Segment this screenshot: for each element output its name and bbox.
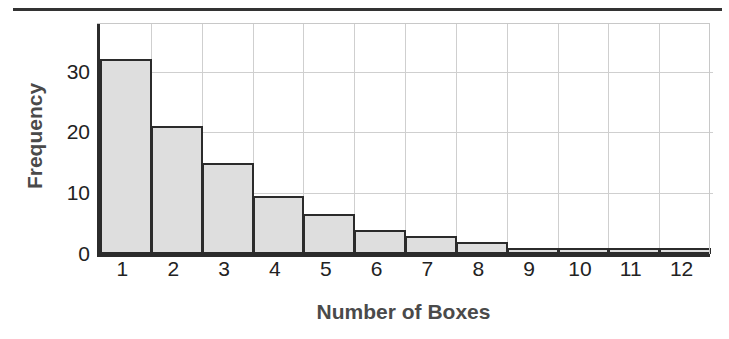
y-tick-label: 10 — [50, 182, 90, 203]
y-tick-label: 0 — [50, 243, 90, 264]
x-axis-tick-labels: 123456789101112 — [97, 258, 710, 288]
x-tick-label: 5 — [300, 258, 351, 279]
x-tick-label: 6 — [351, 258, 402, 279]
y-tick-label: 20 — [50, 121, 90, 142]
plot-frame-top — [97, 23, 710, 24]
histogram-bar — [202, 163, 254, 254]
histogram-bar — [608, 248, 660, 254]
plot-frame-right — [709, 23, 710, 254]
histogram-bar — [303, 214, 355, 254]
x-tick-label: 9 — [504, 258, 555, 279]
bar-series — [100, 23, 710, 254]
histogram-bar — [659, 248, 711, 254]
x-tick-label: 12 — [656, 258, 707, 279]
y-axis-title: Frequency — [23, 36, 47, 236]
x-tick-label: 10 — [555, 258, 606, 279]
histogram-bar — [354, 230, 406, 254]
y-axis-tick-labels: 0102030 — [48, 0, 90, 339]
x-tick-label: 8 — [453, 258, 504, 279]
histogram-bar — [405, 236, 457, 254]
x-tick-label: 7 — [402, 258, 453, 279]
histogram-bar — [507, 248, 559, 254]
histogram-bar — [456, 242, 508, 254]
x-tick-label: 2 — [148, 258, 199, 279]
histogram-bar — [253, 196, 304, 254]
x-tick-label: 4 — [250, 258, 301, 279]
y-tick-label: 30 — [50, 61, 90, 82]
x-axis-title: Number of Boxes — [97, 300, 710, 324]
plot-area — [97, 23, 710, 257]
histogram-figure: Frequency 0102030 123456789101112 Number… — [0, 0, 729, 339]
histogram-bar — [558, 248, 609, 254]
x-tick-label: 11 — [605, 258, 656, 279]
histogram-bar — [151, 126, 203, 254]
x-tick-label: 1 — [97, 258, 148, 279]
histogram-bar — [100, 59, 152, 254]
top-horizontal-rule — [13, 8, 722, 11]
x-tick-label: 3 — [199, 258, 250, 279]
